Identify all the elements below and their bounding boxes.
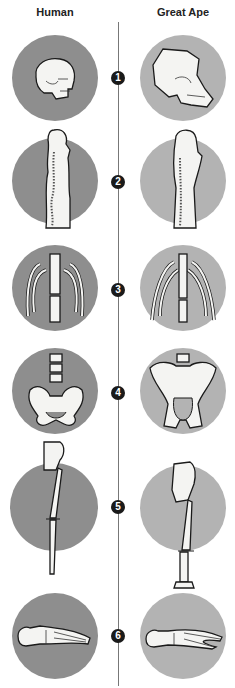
number-badge-5: 5 xyxy=(111,500,125,514)
ape-pelvis-icon xyxy=(146,352,220,432)
human-leg-icon xyxy=(40,440,70,580)
ape-foot-icon xyxy=(144,625,224,651)
ape-leg-icon xyxy=(168,460,202,590)
human-ribcage-icon xyxy=(20,250,90,326)
number-badge-4: 4 xyxy=(111,386,125,400)
human-foot-icon xyxy=(16,622,92,650)
number-badge-3: 3 xyxy=(111,283,125,297)
number-badge-6: 6 xyxy=(111,629,125,643)
human-pelvis-icon xyxy=(20,350,90,430)
divider-line xyxy=(118,22,119,686)
header-great-ape: Great Ape xyxy=(133,6,233,18)
header-human: Human xyxy=(5,6,105,18)
number-badge-2: 2 xyxy=(111,175,125,189)
human-spine-icon xyxy=(40,128,80,228)
ape-spine-icon xyxy=(168,128,208,228)
ape-skull-icon xyxy=(147,45,217,110)
ape-ribcage-icon xyxy=(148,250,218,326)
number-badge-1: 1 xyxy=(111,71,125,85)
human-skull-icon xyxy=(30,55,80,105)
